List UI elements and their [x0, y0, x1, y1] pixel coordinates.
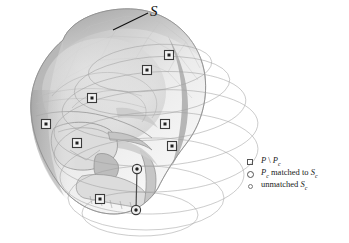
legend-item-unmatched-sc: unmatched Sc	[247, 180, 347, 192]
skull-surface-rendering	[0, 0, 349, 243]
square-outline-icon	[247, 159, 261, 165]
circle-marker[interactable]	[131, 205, 140, 214]
square-marker[interactable]	[165, 51, 174, 60]
legend-label-unmatched-sc: unmatched Sc	[261, 179, 307, 194]
figure-root: S P \ Pc Pc matched to Sc unmatched S	[0, 0, 349, 243]
square-marker[interactable]	[42, 120, 51, 129]
circle-outline-small-icon	[247, 184, 261, 189]
square-marker[interactable]	[73, 139, 82, 148]
surface-label-s: S	[150, 3, 158, 20]
square-marker[interactable]	[143, 66, 152, 75]
square-marker[interactable]	[96, 195, 105, 204]
legend: P \ Pc Pc matched to Sc unmatched Sc	[247, 156, 347, 192]
square-marker[interactable]	[88, 94, 97, 103]
square-marker[interactable]	[168, 142, 177, 151]
circle-outline-large-icon	[247, 171, 261, 178]
circle-marker[interactable]	[132, 164, 141, 173]
square-marker[interactable]	[161, 120, 170, 129]
left-lateral-wash	[28, 90, 76, 200]
